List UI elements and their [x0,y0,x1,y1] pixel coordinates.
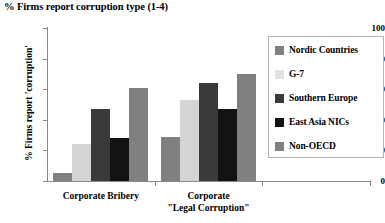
legend-item[interactable]: Nordic Countries [275,45,358,55]
legend-swatch-icon [275,46,284,55]
bar [180,100,199,181]
x-axis-tick-mark [370,182,371,186]
y-axis-label: % Firms report 'corruption' [24,28,34,178]
bar [53,173,72,181]
bar [110,138,129,181]
bar-chart: % Firms report corruption type (1-4) % F… [0,0,385,223]
legend-swatch-icon [275,142,284,151]
chart-legend: Nordic CountriesG-7Southern EuropeEast A… [268,36,384,158]
legend-item[interactable]: East Asia NICs [275,117,349,127]
x-axis-tick-mark [262,182,263,186]
legend-swatch-icon [275,118,284,127]
legend-swatch-icon [275,94,284,103]
legend-item[interactable]: Non-OECD [275,141,336,151]
legend-item-label: Southern Europe [289,93,357,103]
legend-item-label: Non-OECD [289,141,336,151]
x-axis-category-label: Corporate"Legal Corruption" [129,190,289,214]
legend-swatch-icon [275,70,284,79]
chart-title: % Firms report corruption type (1-4) [4,1,168,12]
bar [218,109,237,181]
x-axis-line [47,181,371,182]
x-axis-category-line: Corporate [129,190,289,202]
bar [91,109,110,181]
x-axis-tick-mark [155,182,156,186]
bar [161,137,180,181]
legend-item[interactable]: Southern Europe [275,93,357,103]
legend-item[interactable]: G-7 [275,69,304,79]
x-axis-category-line: "Legal Corruption" [129,202,289,214]
bar [72,144,91,181]
bar [237,74,256,181]
bar [129,88,148,181]
legend-item-label: Nordic Countries [289,45,358,55]
legend-item-label: East Asia NICs [289,117,349,127]
bar [199,83,218,181]
legend-item-label: G-7 [289,69,304,79]
